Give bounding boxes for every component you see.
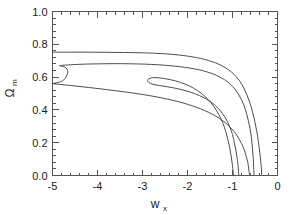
x-tick-label: -1	[228, 180, 238, 192]
plot-frame	[53, 12, 278, 176]
x-axis-ticks	[53, 12, 278, 176]
x-tick-label: 0	[274, 180, 280, 192]
x-tick-label: -3	[138, 180, 148, 192]
x-axis-tick-labels: -5-4-3-2-10	[48, 180, 281, 192]
y-tick-label: 0.8	[32, 38, 47, 50]
x-tick-label: -5	[48, 180, 58, 192]
y-axis-title-main: Ω	[3, 88, 17, 97]
y-axis-title-subscript: m	[10, 79, 19, 86]
x-axis-title-subscript: x	[163, 204, 167, 213]
contour-series-group	[53, 52, 262, 175]
contour-curve	[53, 52, 262, 175]
plot-canvas: -5-4-3-2-10 0.00.20.40.60.81.0 w x Ω m	[0, 0, 294, 215]
x-axis-title: w x	[150, 197, 167, 213]
y-tick-label: 0.6	[32, 71, 47, 83]
y-tick-label: 0.0	[32, 170, 47, 182]
x-tick-label: -2	[183, 180, 193, 192]
y-tick-label: 1.0	[32, 6, 47, 18]
y-axis-tick-labels: 0.00.20.40.60.81.0	[32, 6, 47, 182]
x-axis-title-main: w	[150, 197, 160, 211]
contour-curve	[53, 64, 255, 176]
contour-curve	[148, 78, 239, 176]
y-tick-label: 0.2	[32, 137, 47, 149]
contour-plot-figure: -5-4-3-2-10 0.00.20.40.60.81.0 w x Ω m	[0, 0, 294, 215]
x-tick-label: -4	[93, 180, 103, 192]
y-axis-ticks	[53, 12, 278, 176]
y-axis-title: Ω m	[3, 79, 19, 97]
y-tick-label: 0.4	[32, 104, 47, 116]
contour-curve	[53, 84, 250, 176]
